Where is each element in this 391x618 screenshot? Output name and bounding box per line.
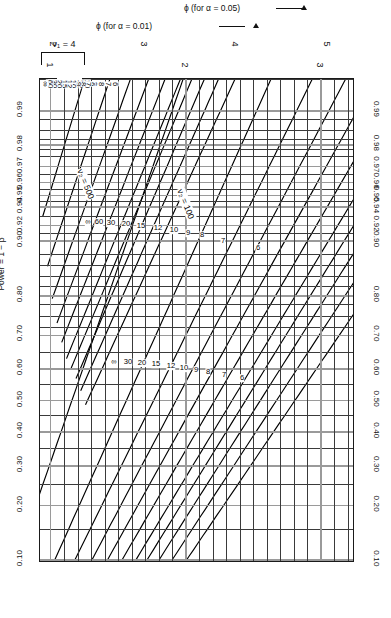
power-gridline [40,110,353,112]
phi01-arrow-head [253,23,259,28]
phi-gridline [199,79,200,561]
nu1-bracket [41,52,85,65]
power-tick-label-bottom: 0.20 [15,495,24,511]
power-tick-label-bottom: 0.98 [15,135,24,151]
power-gridline [40,484,353,485]
phi-alpha01-tick: 3 [315,62,325,67]
power-gridline [40,316,353,317]
curve-label: 9 [185,229,190,237]
power-chart-figure: 0.990.980.970.960.950.940.920.900.800.70… [0,0,391,618]
power-gridline [40,130,353,131]
power-gridline [40,254,353,255]
curve-label: ∞ [85,218,91,226]
curve-label: 10 [179,364,188,372]
power-gridline [40,465,353,467]
phi-gridline [348,79,349,561]
curve-label: 7 [221,371,226,379]
power-gridline [40,448,353,449]
curve-label: 20 [121,220,130,228]
phi-gridline [105,79,106,561]
phi-gridline [185,79,187,561]
phi-gridline [334,79,335,561]
power-tick-label: 0.30 [372,456,381,472]
power-gridline [40,206,353,208]
power-gridline [40,295,353,297]
phi-gridline [132,79,133,561]
power-tick-label-bottom: 0.70 [15,325,24,341]
power-gridline [40,529,353,530]
power-tick-label: 0.90 [372,231,381,247]
phi-gridline [91,79,92,561]
power-gridline [40,240,353,242]
power-tick-label: 0.40 [372,422,381,438]
curve-label: 12 [153,224,162,232]
power-gridline [40,304,353,305]
phi05-arrow-head [301,5,307,10]
power-tick-label: 0.94 [372,197,381,213]
phi-alpha05-axis-title: ϕ (for α = 0.05) [184,3,240,13]
power-gridline [40,149,353,150]
curve-label: 10 [169,226,178,234]
power-gridline [40,156,353,157]
power-tick-label-bottom: 0.40 [15,422,24,438]
power-gridline [40,119,353,120]
power-gridline [40,352,353,353]
power-axis-title: Power = 1 − β [0,238,6,291]
phi-gridline [50,79,52,561]
power-tick-label: 0.97 [372,156,381,172]
curve-label: 6 [239,374,244,382]
phi-alpha01-axis-title: ϕ (for α = 0.01) [96,21,152,31]
phi-gridline [78,79,79,561]
power-tick-label-bottom: 0.92 [15,216,24,232]
curve-label: 7 [220,237,225,245]
power-tick-label: 0.92 [372,216,381,232]
curve-label: 60 [94,218,103,226]
curve-label: ∞ [41,81,49,87]
phi-gridline [294,79,295,561]
phi-gridline [253,79,254,561]
power-tick-label: 0.80 [372,286,381,302]
curve-label: 30 [123,358,132,366]
nu1-label: ν₁ = 4 [53,39,76,49]
curve-label: 15 [136,222,145,230]
phi-gridline [145,79,146,561]
power-tick-label: 0.20 [372,495,381,511]
power-tick-label-bottom: 0.60 [15,359,24,375]
curve-label: 8 [199,231,204,239]
phi-gridline [213,79,214,561]
power-tick-label: 0.98 [372,135,381,151]
phi-gridline [118,79,119,561]
power-gridline [40,415,353,416]
curve-label: 30 [106,219,115,227]
phi-gridline [267,79,268,561]
power-tick-label-bottom: 0.99 [15,101,24,117]
power-gridline [40,233,353,234]
phi-gridline [307,79,308,561]
curve-label: 9 [193,366,198,374]
phi-alpha05-tick: 3 [139,41,149,46]
phi-alpha05-tick: 5 [322,41,332,46]
power-tick-label: 0.50 [372,391,381,407]
phi05-arrow-line [276,8,302,9]
phi-gridline [64,79,65,561]
curve-alpha001-nu2-30 [52,78,354,562]
power-gridline [40,327,353,328]
curve-label: 15 [151,360,160,368]
phi-alpha01-tick: 2 [180,62,190,67]
curve-label: 6 [255,244,260,252]
phi-gridline [226,79,227,561]
power-tick-label-bottom: 0.94 [15,197,24,213]
phi-gridline [172,79,173,561]
power-gridline [40,265,353,266]
power-gridline [40,139,353,140]
power-tick-label-bottom: 0.80 [15,286,24,302]
power-gridline [40,144,353,146]
chart-page: 0.990.980.970.960.950.940.920.900.800.70… [0,0,391,618]
power-tick-label-bottom: 0.30 [15,456,24,472]
power-tick-label-bottom: 0.50 [15,391,24,407]
power-gridline [40,335,353,337]
curve-alpha001-nu2-7 [101,227,354,562]
power-gridline [40,505,353,507]
phi-gridline [159,79,160,561]
phi-gridline [240,79,241,561]
